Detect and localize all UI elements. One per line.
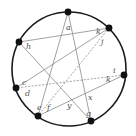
angle-label-k: k <box>106 75 111 84</box>
vertex-point-P7 <box>16 39 23 46</box>
angle-label-y: y <box>66 101 72 110</box>
vertex-point-P4 <box>88 118 95 125</box>
chord-P6-P2 <box>16 28 109 88</box>
angle-label-d: d <box>25 89 30 98</box>
vertex-point-P5 <box>35 113 42 120</box>
vertex-point-P6 <box>13 85 20 92</box>
angle-label-i: i <box>113 66 116 75</box>
angle-label-k: k <box>96 27 101 36</box>
angle-label-j: j <box>99 37 104 46</box>
angle-label-f: f <box>46 103 52 112</box>
angle-label-a: a <box>66 23 71 32</box>
angle-label-e: e <box>37 103 42 112</box>
angle-label-h: h <box>26 42 31 51</box>
angle-label-c: c <box>22 78 27 87</box>
vertex-point-P2 <box>106 25 113 32</box>
vertex-point-P3 <box>121 72 128 79</box>
angle-label-g: g <box>86 109 91 118</box>
vertex-point-P1 <box>65 9 72 16</box>
angle-label-x: x <box>88 93 93 102</box>
chord-P7-P4 <box>19 42 91 121</box>
angle-labels: ahkjikxgyfedc <box>22 23 116 118</box>
star-heptagon-diagram: ahkjikxgyfedc <box>0 0 136 136</box>
